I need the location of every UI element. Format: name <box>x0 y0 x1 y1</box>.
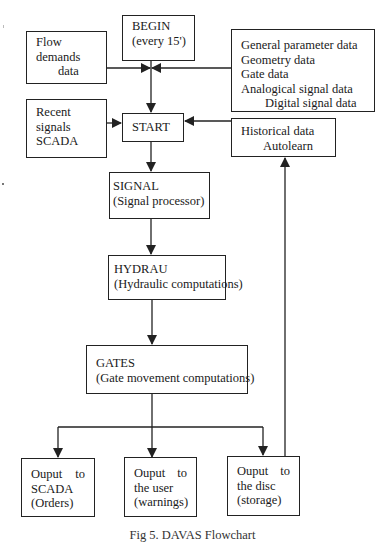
node-text: START <box>132 120 174 135</box>
node-output-disc: Ouputto the disc (storage) <box>227 456 300 516</box>
node-text: the user <box>134 481 187 496</box>
node-general-parameters: General parameter data Geometry data Gat… <box>231 29 375 112</box>
node-begin-title: BEGIN <box>132 19 185 34</box>
node-text: GATES <box>96 356 238 371</box>
node-text: to <box>177 466 187 481</box>
figure-caption: Fig 5. DAVAS Flowchart <box>0 528 385 542</box>
node-text: HYDRAU <box>114 262 220 277</box>
node-begin-subtitle: (every 15') <box>132 34 185 49</box>
node-text: Ouput <box>237 464 268 479</box>
scan-speck <box>2 183 4 185</box>
node-text: Analogical signal data <box>241 82 365 97</box>
node-begin: BEGIN (every 15') <box>122 15 195 61</box>
scan-speck <box>3 25 4 28</box>
node-text: SCADA <box>36 134 97 149</box>
node-text: (Orders) <box>31 496 85 511</box>
node-text: Ouput <box>31 467 62 482</box>
node-text: (warnings) <box>134 495 187 510</box>
node-text: Digital signal data <box>241 96 365 111</box>
node-output-scada: Ouputto SCADA (Orders) <box>21 458 95 517</box>
node-text: Historical data <box>241 124 326 139</box>
node-text: SCADA <box>31 482 85 497</box>
node-hydrau: HYDRAU (Hydraulic computations) <box>108 255 226 300</box>
node-text: (Hydraulic computations) <box>114 277 220 292</box>
node-text: signals <box>36 120 97 135</box>
node-text: General parameter data <box>241 38 365 53</box>
node-historical: Historical data Autolearn <box>231 118 336 157</box>
node-text: Ouputto <box>31 467 85 482</box>
node-text: data <box>36 64 97 79</box>
node-text: demands <box>36 50 97 65</box>
node-text: Autolearn <box>241 139 326 154</box>
node-gates: GATES (Gate movement computations) <box>86 345 248 394</box>
node-text: (Signal processor) <box>113 194 206 209</box>
node-text: to <box>280 464 290 479</box>
node-text: SIGNAL <box>113 179 206 194</box>
node-text: the disc <box>237 479 290 494</box>
node-text: Recent <box>36 105 97 120</box>
node-start: START <box>122 113 184 142</box>
node-text: Ouput <box>134 466 165 481</box>
node-text: Flow <box>36 35 97 50</box>
node-output-user: Ouputto the user (warnings) <box>124 457 197 517</box>
node-text: Ouputto <box>237 464 290 479</box>
node-text: (Gate movement computations) <box>96 371 238 386</box>
node-text: to <box>75 467 85 482</box>
node-text: Geometry data <box>241 53 365 68</box>
node-signal: SIGNAL (Signal processor) <box>109 172 210 219</box>
node-recent-signals: Recent signals SCADA <box>26 99 107 158</box>
node-flow-demands: Flow demands data <box>26 31 107 84</box>
node-text: Gate data <box>241 67 365 82</box>
node-text: Ouputto <box>134 466 187 481</box>
node-text: (storage) <box>237 493 290 508</box>
